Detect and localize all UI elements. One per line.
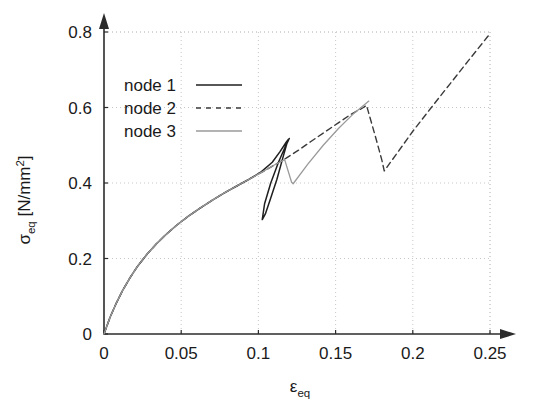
legend-label-1: node 1 bbox=[124, 76, 176, 95]
y-axis-title: σeq [N/mm2] bbox=[14, 155, 37, 244]
x-tick-label: 0.05 bbox=[165, 344, 198, 363]
legend-label-2: node 2 bbox=[124, 99, 176, 118]
x-axis-arrow bbox=[500, 329, 516, 339]
x-tick-label: 0.15 bbox=[319, 344, 352, 363]
y-tick-label: 0 bbox=[83, 325, 92, 344]
x-axis-title: εeq bbox=[290, 377, 310, 399]
x-tick-label: 0 bbox=[99, 344, 108, 363]
y-tick-label: 0.2 bbox=[68, 250, 92, 269]
x-tick-label: 0.2 bbox=[401, 344, 425, 363]
series-line-1 bbox=[104, 138, 289, 334]
tick-labels: 00.050.10.150.20.2500.20.40.60.8 bbox=[68, 23, 506, 363]
y-axis-arrow bbox=[99, 13, 109, 29]
chart-legend: node 1node 2node 3 bbox=[124, 76, 242, 141]
y-tick-label: 0.6 bbox=[68, 99, 92, 118]
x-tick-label: 0.25 bbox=[473, 344, 506, 363]
y-tick-label: 0.4 bbox=[68, 174, 92, 193]
stress-strain-plot: 00.050.10.150.20.2500.20.40.60.8 node 1n… bbox=[0, 0, 538, 414]
axes bbox=[99, 13, 516, 339]
y-tick-label: 0.8 bbox=[68, 23, 92, 42]
x-tick-label: 0.1 bbox=[247, 344, 271, 363]
legend-label-3: node 3 bbox=[124, 122, 176, 141]
chart-figure: 00.050.10.150.20.2500.20.40.60.8 node 1n… bbox=[0, 0, 538, 414]
